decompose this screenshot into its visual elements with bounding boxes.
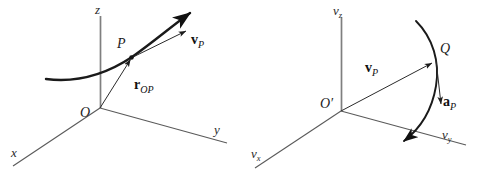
vy-axis-label: vy	[442, 127, 452, 144]
position-space-panel: z x y O P rOP vP	[0, 0, 244, 172]
point-label-p: P	[116, 36, 126, 51]
origin-label-o-prime: O′	[320, 96, 334, 111]
hodograph-path	[404, 21, 437, 141]
vx-axis-label: vx	[251, 146, 261, 163]
x-axis-label: x	[10, 145, 17, 160]
y-axis-label: y	[212, 122, 220, 137]
velocity-space-panel: vz vx vy O′ Q vP aP	[244, 0, 488, 172]
velocity-vector-vp	[341, 63, 432, 111]
z-axis-label: z	[94, 2, 100, 17]
vector-label-ap: aP	[443, 94, 456, 112]
vx-axis	[255, 111, 341, 168]
origin-label-o: O	[80, 105, 90, 120]
y-axis	[100, 108, 227, 143]
velocity-vector-vp	[131, 31, 186, 58]
point-label-q: Q	[440, 41, 450, 56]
vector-label-vp: vP	[365, 60, 378, 78]
vector-label-rop: rOP	[134, 77, 154, 95]
figure-root: z x y O P rOP vP	[0, 0, 488, 172]
vector-label-vp: vP	[191, 32, 204, 50]
point-marker-p	[129, 55, 134, 60]
vz-axis-label: vz	[333, 3, 343, 20]
